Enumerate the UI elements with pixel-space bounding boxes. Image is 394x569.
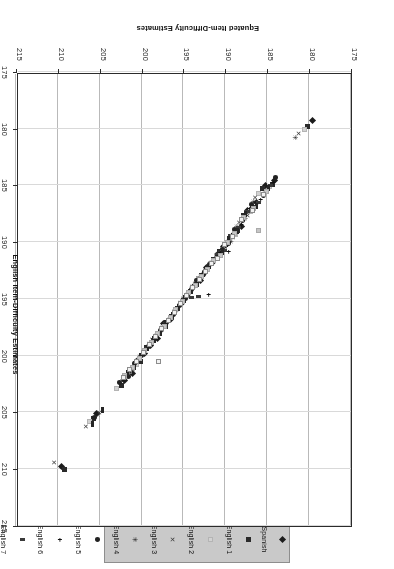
x-axis-tick-label: 185 (0, 179, 9, 192)
data-point-english10 (215, 256, 220, 261)
data-point-english10 (209, 261, 214, 266)
gridline-vertical (266, 74, 267, 526)
y-axis-tick (267, 69, 268, 73)
data-point-english10 (178, 301, 183, 306)
legend-marker-light-square-icon (207, 537, 214, 544)
x-axis-tick (13, 356, 17, 357)
x-axis-tick-label: 180 (0, 123, 9, 136)
gridline-vertical (308, 74, 309, 526)
data-point-spanish (309, 117, 316, 124)
legend-label: English 4 (113, 525, 120, 555)
data-point-english10 (250, 208, 255, 213)
data-point-english10 (239, 217, 244, 222)
gridline-vertical (57, 74, 58, 526)
gridline-vertical (141, 74, 142, 526)
data-point-english-5 (92, 415, 97, 420)
x-axis-tick-label: 215 (0, 520, 9, 533)
data-point-english10 (172, 310, 177, 315)
legend-marker-glyph (246, 538, 251, 543)
x-axis-tick (13, 299, 17, 300)
y-axis-tick (100, 69, 101, 73)
gridline-vertical (224, 74, 225, 526)
data-point-english10 (190, 285, 195, 290)
legend-marker-glyph (208, 538, 213, 543)
data-point-english10 (166, 318, 171, 323)
legend-label: English 2 (188, 525, 195, 555)
x-axis-tick (13, 469, 17, 470)
x-axis-tick-label: 175 (0, 66, 9, 79)
x-axis-tick (13, 526, 17, 527)
x-axis-tick (13, 413, 17, 414)
x-axis-tick (13, 129, 17, 130)
legend-marker-x-icon: ✕ (170, 537, 177, 544)
data-point-english-4: ✳ (293, 135, 298, 140)
data-point-english-1 (62, 467, 67, 472)
data-point-english-7 (189, 296, 194, 299)
y-axis-tick-label: 180 (308, 48, 317, 61)
data-point-english-9 (256, 228, 261, 233)
x-axis-tick-label: 195 (0, 293, 9, 306)
y-axis-tick-label: 195 (182, 48, 191, 61)
y-axis-tick-label: 205 (99, 48, 108, 61)
plot-area: ✕✕✕✕✕✕✕✕✕✕✕✕✕✕✕✕✕✕✕✕✕✕✕✕✕✕✳✳✳✳✳✳✳✳✳✳✳✳✳✳… (17, 73, 352, 527)
x-axis-tick-label: 200 (0, 350, 9, 363)
legend-label: English 6 (37, 525, 44, 555)
data-point-english10 (121, 375, 126, 380)
gridline-horizontal (18, 241, 351, 242)
data-point-english-6: + (206, 292, 211, 297)
gridline-vertical (350, 74, 351, 526)
legend-marker-glyph (95, 538, 100, 543)
y-axis-tick-label: 190 (224, 48, 233, 61)
data-point-english10 (156, 359, 161, 364)
legend-marker-glyph (279, 536, 286, 543)
scatter-plot-figure: SpanishEnglish 1English 2English 3✕Engli… (0, 0, 394, 569)
gridline-horizontal (18, 71, 351, 72)
legend-marker-glyph (20, 539, 25, 542)
gridline-vertical (99, 74, 100, 526)
legend-marker-diamond-icon (279, 537, 286, 544)
legend-marker-glyph: ✕ (171, 538, 176, 543)
data-point-english-3: ✕ (52, 460, 57, 465)
gridline-horizontal (18, 355, 351, 356)
x-axis-tick (13, 242, 17, 243)
x-axis-tick-label: 205 (0, 406, 9, 419)
y-axis-tick (351, 69, 352, 73)
data-point-english10 (153, 334, 158, 339)
legend-label: English 3 (150, 525, 157, 555)
x-axis-tick (13, 72, 17, 73)
y-axis-title: Equated Item-Difficulty Estimates (137, 24, 260, 33)
data-point-english10 (184, 293, 189, 298)
y-axis-tick-label: 185 (266, 48, 275, 61)
data-point-english10 (197, 277, 202, 282)
data-point-english10 (261, 192, 266, 197)
data-point-english-8 (101, 407, 104, 413)
legend-marker-glyph: + (57, 538, 62, 543)
data-point-english10 (134, 359, 139, 364)
data-point-english10 (127, 367, 132, 372)
y-axis-tick-label: 200 (141, 48, 150, 61)
x-axis-tick (13, 186, 17, 187)
legend-label: English 1 (226, 525, 233, 555)
y-axis-tick (184, 69, 185, 73)
y-axis-tick (142, 69, 143, 73)
data-point-english10 (141, 350, 146, 355)
gridline-horizontal (18, 468, 351, 469)
legend-marker-star-icon: ✳ (132, 537, 139, 544)
legend-marker-dash-icon (19, 537, 26, 544)
y-axis-tick-label: 175 (350, 48, 359, 61)
data-point-english10 (222, 242, 227, 247)
data-point-english-7 (196, 295, 201, 298)
data-point-english-8 (91, 421, 94, 427)
x-axis-tick-label: 210 (0, 463, 9, 476)
y-axis-tick-label: 215 (15, 48, 24, 61)
gridline-horizontal (18, 185, 351, 186)
gridline-horizontal (18, 412, 351, 413)
data-point-english10 (159, 326, 164, 331)
data-point-english-3: ✕ (84, 424, 89, 429)
legend-marker-square-icon (245, 537, 252, 544)
y-axis-tick (225, 69, 226, 73)
y-axis-tick (309, 69, 310, 73)
data-point-english10 (203, 269, 208, 274)
data-point-english10 (147, 342, 152, 347)
data-point-english-2 (114, 386, 119, 391)
